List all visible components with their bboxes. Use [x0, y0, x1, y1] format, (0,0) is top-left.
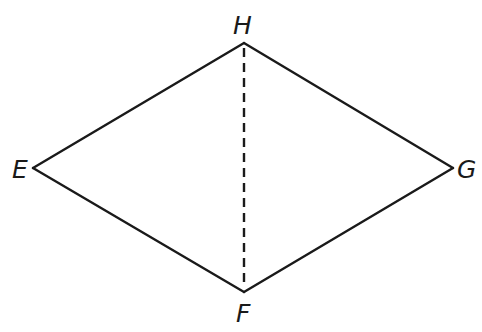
vertex-label-e: E	[12, 155, 28, 184]
edge-g-f	[244, 168, 453, 292]
edge-h-g	[244, 43, 453, 168]
rhombus-diagram: H E G F	[0, 0, 482, 332]
edge-f-e	[33, 168, 244, 292]
vertex-label-g: G	[457, 155, 476, 184]
edges	[33, 43, 453, 292]
vertex-label-h: H	[233, 11, 252, 40]
vertex-label-f: F	[236, 299, 251, 328]
edge-e-h	[33, 43, 244, 168]
